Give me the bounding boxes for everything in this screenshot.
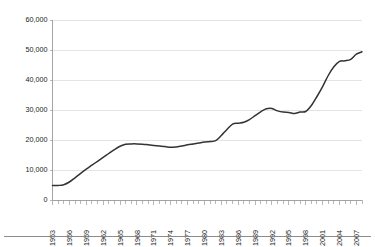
x-tick-label: 1962	[99, 230, 108, 246]
x-tick-label: 1959	[82, 230, 91, 246]
x-tick-label: 1995	[284, 230, 293, 246]
x-axis-labels: 1953195619591962196519681971197419771980…	[48, 230, 361, 246]
y-tick-label: 40,000	[26, 75, 48, 84]
y-tick-label: 60,000	[26, 15, 48, 24]
x-tick-label: 2007	[352, 230, 361, 246]
x-tick-label: 1986	[234, 230, 243, 246]
x-tick-label: 2004	[335, 230, 344, 246]
x-tick-label: 1953	[48, 230, 57, 246]
x-tick-label: 1980	[200, 230, 209, 246]
data-series-line	[53, 52, 363, 186]
chart-figure: 010,00020,00030,00040,00050,00060,000 19…	[0, 0, 375, 247]
x-tick-label: 1968	[133, 230, 142, 246]
x-tick-label: 1956	[65, 230, 74, 246]
x-tick-label: 1983	[217, 230, 226, 246]
y-tick-label: 20,000	[26, 135, 48, 144]
gridlines	[53, 20, 363, 170]
y-tick-label: 30,000	[26, 105, 48, 114]
y-tick-label: 50,000	[26, 45, 48, 54]
x-tick-label: 1989	[251, 230, 260, 246]
x-tick-label: 1971	[149, 230, 158, 246]
x-tick-label: 1992	[268, 230, 277, 246]
x-tick-label: 2001	[318, 230, 327, 246]
y-tick-label: 10,000	[26, 165, 48, 174]
x-tick-label: 1974	[166, 230, 175, 246]
x-tick-label: 1998	[301, 230, 310, 246]
x-tick-label: 1977	[183, 230, 192, 246]
x-tick-label: 1965	[116, 230, 125, 246]
line-chart: 010,00020,00030,00040,00050,00060,000 19…	[0, 0, 375, 247]
y-tick-label: 0	[44, 195, 48, 204]
y-axis-labels: 010,00020,00030,00040,00050,00060,000	[26, 15, 48, 204]
